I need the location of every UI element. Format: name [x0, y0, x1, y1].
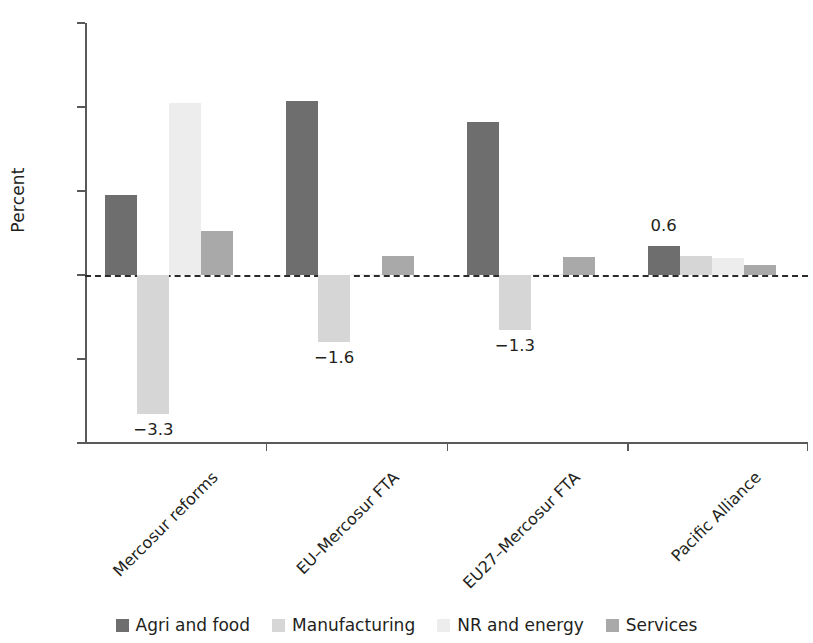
bar [648, 246, 680, 275]
x-axis-category-label: EU27–Mercosur FTA [457, 468, 584, 595]
x-axis-tick-mark [266, 442, 267, 451]
y-axis-tick-mark [77, 442, 85, 444]
legend-item: Services [606, 615, 698, 635]
legend-label: Agri and food [136, 615, 251, 635]
y-axis-tick-mark [77, 274, 85, 276]
data-value-label: −1.3 [495, 336, 535, 355]
bar [712, 258, 744, 275]
legend-label: Manufacturing [292, 615, 415, 635]
legend-label: Services [626, 615, 698, 635]
y-axis-tick-mark [77, 190, 85, 192]
bar-chart: Percent 6420−2−4 −3.3−1.6−1.30.6 Mercosu… [0, 0, 813, 643]
bar [382, 256, 414, 275]
bar [744, 265, 776, 276]
x-axis-tick-mark [447, 442, 448, 451]
bar [201, 231, 233, 275]
legend-swatch-icon [437, 619, 450, 632]
bar [169, 103, 201, 275]
legend-item: NR and energy [437, 615, 584, 635]
plot-area [85, 23, 808, 443]
x-axis-category-label: Pacific Alliance [638, 468, 765, 595]
y-axis-tick-mark [77, 22, 85, 24]
bar [137, 275, 169, 414]
bar [531, 274, 563, 275]
data-value-label: 0.6 [651, 216, 677, 235]
bar [499, 275, 531, 330]
y-axis-tick-mark [77, 358, 85, 360]
legend-swatch-icon [116, 619, 129, 632]
data-value-label: −1.6 [314, 348, 354, 367]
bar [286, 101, 318, 275]
bar [105, 195, 137, 275]
x-axis-category-label: Mercosur reforms [96, 468, 223, 595]
y-axis-label: Percent [8, 130, 28, 270]
legend-item: Agri and food [116, 615, 251, 635]
y-axis-tick-mark [77, 106, 85, 108]
bar [563, 257, 595, 275]
bar [318, 275, 350, 342]
x-axis-category-label: EU–Mercosur FTA [276, 468, 403, 595]
data-value-label: −3.3 [133, 420, 173, 439]
chart-legend: Agri and foodManufacturingNR and energyS… [0, 615, 813, 635]
legend-label: NR and energy [457, 615, 584, 635]
bar [467, 122, 499, 275]
x-axis-tick-mark [807, 442, 808, 451]
bar [680, 256, 712, 275]
legend-swatch-icon [272, 619, 285, 632]
x-axis-tick-mark [627, 442, 628, 451]
legend-item: Manufacturing [272, 615, 415, 635]
bar [350, 274, 382, 275]
legend-swatch-icon [606, 619, 619, 632]
